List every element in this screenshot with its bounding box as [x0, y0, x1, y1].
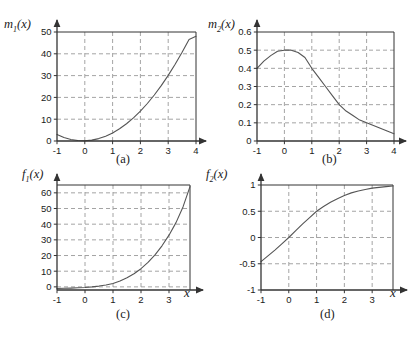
svg-text:-1: -1 — [53, 145, 61, 156]
svg-text:0: 0 — [46, 135, 51, 146]
svg-text:60: 60 — [41, 187, 52, 198]
svg-text:40: 40 — [41, 219, 52, 230]
svg-text:0.4: 0.4 — [238, 63, 251, 74]
svg-text:0: 0 — [246, 135, 251, 146]
svg-text:1: 1 — [250, 179, 255, 190]
svg-text:50: 50 — [41, 203, 52, 214]
svg-text:50: 50 — [41, 26, 52, 37]
svg-text:-1: -1 — [53, 294, 61, 305]
panel-b-ylabel: m2(x) — [208, 18, 235, 34]
panel-c-plot: 0102030405060-10123 — [0, 168, 207, 338]
svg-text:30: 30 — [41, 70, 52, 81]
svg-text:40: 40 — [41, 48, 52, 59]
svg-text:-1: -1 — [253, 145, 261, 156]
four-panel-function-figure: 01020304050-101234 m1(x) (a) 00.10.20.30… — [0, 0, 413, 338]
svg-text:0: 0 — [282, 145, 287, 156]
panel-d: -1-0.500.51-10123 f2(x) x (d) — [206, 168, 413, 338]
svg-text:0: 0 — [82, 294, 87, 305]
svg-text:-1: -1 — [247, 284, 255, 295]
svg-text:1: 1 — [110, 294, 115, 305]
panel-c-xlabel: x — [184, 286, 190, 299]
svg-text:10: 10 — [41, 114, 52, 125]
panel-b: 00.10.20.30.40.50.6-101234 m2(x) (b) — [206, 8, 413, 168]
svg-text:1: 1 — [309, 145, 314, 156]
panel-b-caption: (b) — [322, 153, 337, 166]
panel-c: 0102030405060-10123 f1(x) x (c) — [0, 168, 207, 338]
svg-text:10: 10 — [41, 266, 52, 277]
svg-text:2: 2 — [138, 294, 143, 305]
svg-text:1: 1 — [314, 294, 319, 305]
svg-text:3: 3 — [370, 294, 375, 305]
panel-d-caption: (d) — [320, 308, 335, 321]
svg-text:0: 0 — [46, 281, 51, 292]
svg-text:2: 2 — [342, 294, 347, 305]
svg-text:-1: -1 — [257, 294, 265, 305]
svg-text:0: 0 — [286, 294, 291, 305]
svg-text:20: 20 — [41, 250, 52, 261]
panel-c-caption: (c) — [116, 308, 130, 321]
svg-text:0.3: 0.3 — [238, 81, 251, 92]
svg-text:0.5: 0.5 — [238, 45, 251, 56]
svg-text:3: 3 — [166, 294, 171, 305]
svg-text:-0.5: -0.5 — [239, 258, 255, 269]
svg-text:20: 20 — [41, 92, 52, 103]
panel-a: 01020304050-101234 m1(x) (a) — [0, 8, 207, 168]
panel-d-ylabel: f2(x) — [206, 168, 227, 184]
svg-text:0: 0 — [82, 145, 87, 156]
svg-text:0.2: 0.2 — [238, 99, 251, 110]
panel-c-ylabel: f1(x) — [22, 168, 43, 184]
svg-text:3: 3 — [166, 145, 171, 156]
panel-a-plot: 01020304050-101234 — [0, 8, 207, 168]
svg-text:0.5: 0.5 — [242, 206, 255, 217]
svg-text:0.6: 0.6 — [238, 26, 251, 37]
svg-text:1: 1 — [110, 145, 115, 156]
svg-text:30: 30 — [41, 234, 52, 245]
panel-a-caption: (a) — [116, 153, 130, 166]
panel-d-xlabel: x — [390, 286, 396, 299]
svg-text:3: 3 — [364, 145, 369, 156]
svg-text:4: 4 — [193, 145, 198, 156]
panel-a-ylabel: m1(x) — [4, 18, 31, 34]
svg-text:2: 2 — [337, 145, 342, 156]
panel-b-plot: 00.10.20.30.40.50.6-101234 — [206, 8, 413, 168]
panel-d-plot: -1-0.500.51-10123 — [206, 168, 413, 338]
svg-text:4: 4 — [391, 145, 396, 156]
svg-text:0: 0 — [250, 232, 255, 243]
svg-text:0.1: 0.1 — [238, 117, 251, 128]
svg-text:2: 2 — [138, 145, 143, 156]
